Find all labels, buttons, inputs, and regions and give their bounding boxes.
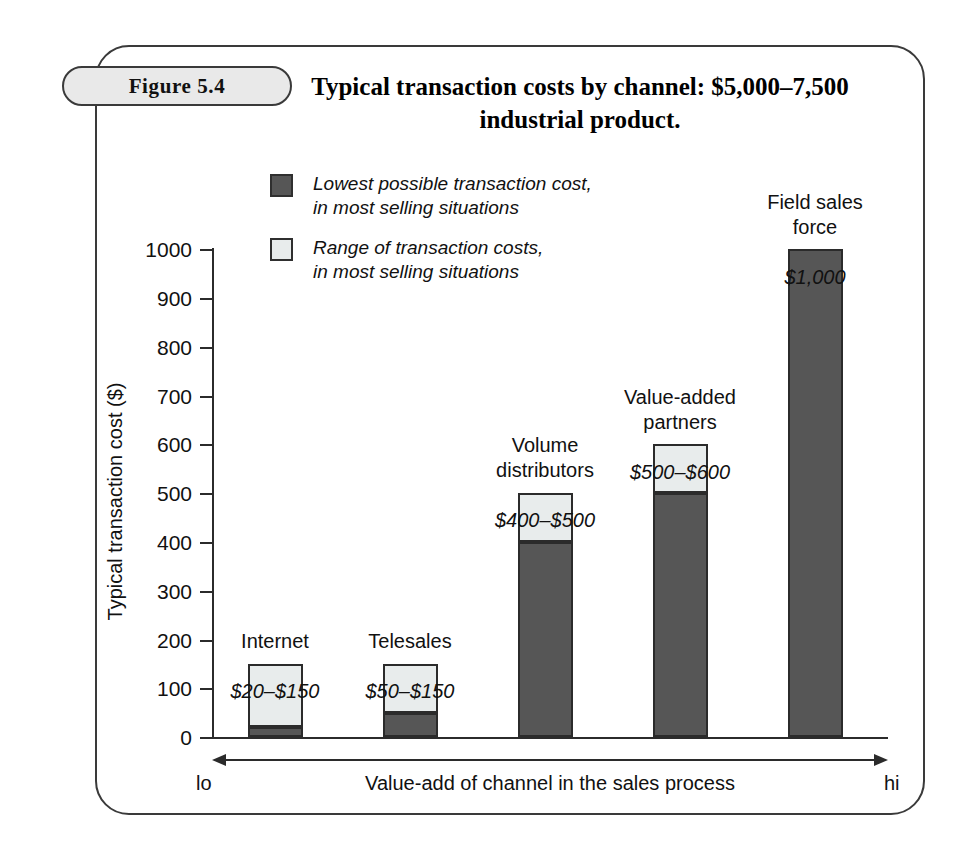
- x-axis-lo-label: lo: [196, 772, 212, 795]
- y-tick-label-900: 900: [132, 288, 192, 309]
- y-axis-title: Typical transaction cost ($): [104, 352, 127, 652]
- bar-label-value-added-partners: Value-added partners $500–$600: [575, 360, 785, 485]
- x-axis-title: Value-add of channel in the sales proces…: [212, 772, 888, 795]
- legend-item-range: Range of transaction costs, in most sell…: [270, 236, 592, 284]
- figure-number-badge: Figure 5.4: [62, 66, 292, 106]
- bar-field-sales-force[interactable]: [788, 249, 843, 737]
- bar-label-telesales: Telesales $50–$150: [305, 604, 515, 704]
- chart-legend: Lowest possible transaction cost, in mos…: [270, 172, 592, 300]
- bar-label-value-added-partners-name: Value-added partners: [624, 386, 736, 433]
- bar-label-telesales-value: $50–$150: [366, 680, 455, 702]
- bar-label-field-sales-force: Field sales force $1,000: [710, 165, 920, 290]
- legend-item-lowest-cost: Lowest possible transaction cost, in mos…: [270, 172, 592, 220]
- y-tick-300: [200, 591, 212, 593]
- y-tick-1000: [200, 249, 212, 251]
- bar-label-volume-distributors-value: $400–$500: [495, 509, 595, 531]
- y-tick-500: [200, 493, 212, 495]
- y-tick-0: [200, 737, 212, 739]
- legend-label-range: Range of transaction costs, in most sell…: [313, 236, 543, 284]
- y-tick-label-0: 0: [132, 727, 192, 748]
- bar-label-value-added-partners-value: $500–$600: [630, 461, 730, 483]
- x-axis-line: [212, 737, 888, 739]
- y-tick-label-1000: 1000: [132, 239, 192, 260]
- bar-internet-low-segment: [248, 727, 303, 737]
- y-tick-label-400: 400: [132, 532, 192, 553]
- bar-label-internet-name: Internet: [241, 630, 309, 652]
- y-tick-400: [200, 542, 212, 544]
- bar-label-field-sales-force-value: $1,000: [784, 266, 845, 288]
- y-tick-label-300: 300: [132, 581, 192, 602]
- legend-label-lowest-cost: Lowest possible transaction cost, in mos…: [313, 172, 592, 220]
- y-tick-label-800: 800: [132, 337, 192, 358]
- figure-number-label: Figure 5.4: [129, 74, 226, 99]
- y-tick-700: [200, 396, 212, 398]
- legend-swatch-light-icon: [270, 238, 293, 261]
- bar-value-added-partners-low-segment: [653, 493, 708, 737]
- y-tick-label-500: 500: [132, 483, 192, 504]
- bar-label-field-sales-force-name: Field sales force: [767, 191, 863, 238]
- bar-value-added-partners[interactable]: [653, 444, 708, 737]
- y-tick-label-600: 600: [132, 434, 192, 455]
- y-tick-800: [200, 347, 212, 349]
- bar-telesales-low-segment: [383, 713, 438, 737]
- y-tick-label-700: 700: [132, 386, 192, 407]
- y-tick-600: [200, 444, 212, 446]
- x-axis-range-arrow-icon: [212, 752, 888, 768]
- x-axis-hi-label: hi: [884, 772, 900, 795]
- bar-volume-distributors-low-segment: [518, 542, 573, 737]
- bar-field-sales-force-low-segment: [788, 249, 843, 737]
- y-tick-900: [200, 298, 212, 300]
- bar-label-telesales-name: Telesales: [368, 630, 451, 652]
- legend-swatch-dark-icon: [270, 174, 293, 197]
- chart-title: Typical transaction costs by channel: $5…: [280, 70, 880, 136]
